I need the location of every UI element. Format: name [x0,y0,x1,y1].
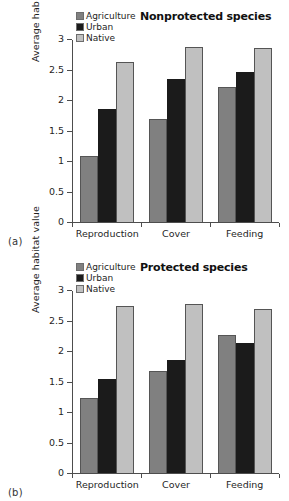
bar-groups [73,291,279,473]
legend: Agriculture Urban Native [76,262,136,294]
legend-swatch-urban [76,23,84,31]
y-axis-tick-label: 3 [58,33,64,44]
y-axis-tick-label: 0.5 [49,437,64,448]
x-axis-tick [72,474,73,478]
bar-agriculture-reproduction [80,156,98,222]
y-axis-tick-label: 2 [58,94,64,105]
y-axis-title: Average habitat value [30,0,41,62]
y-axis-tick-label: 1 [58,406,64,417]
bar-agriculture-cover [149,119,167,222]
bar-urban-reproduction [98,379,116,473]
x-axis-tick [279,223,280,227]
x-axis-tick [141,474,142,478]
x-axis-tick [141,223,142,227]
bar-group [142,291,211,473]
bar-urban-cover [167,360,185,473]
x-axis-tick [210,223,211,227]
y-axis-tick: 2.5 [67,70,72,71]
chart-panel-nonprotected: Nonprotected species Agriculture Urban N… [0,0,289,250]
y-axis-tick-label: 0 [58,216,64,227]
y-axis-tick-label: 0 [58,467,64,478]
y-axis-tick: 3 [67,290,72,291]
legend-item-agriculture: Agriculture [76,262,136,272]
bar-group [73,291,142,473]
x-axis-label: Reproduction [73,228,142,239]
y-axis-tick-label: 1 [58,155,64,166]
bar-agriculture-feeding [218,335,236,473]
x-axis-tick [279,474,280,478]
legend: Agriculture Urban Native [76,11,136,43]
bar-group [73,40,142,222]
legend-item-agriculture: Agriculture [76,11,136,21]
legend-label-urban: Urban [86,274,113,283]
legend-label-urban: Urban [86,23,113,32]
plot-area: 00.511.522.53 [72,40,279,223]
bar-group [142,40,211,222]
bar-native-reproduction [116,306,134,473]
legend-swatch-agriculture [76,263,84,271]
chart-title: Nonprotected species [140,10,271,23]
chart-title: Protected species [140,261,248,274]
legend-swatch-agriculture [76,12,84,20]
bar-native-reproduction [116,62,134,222]
x-axis-tick [210,474,211,478]
legend-item-urban: Urban [76,22,136,32]
legend-label-agriculture: Agriculture [86,12,136,21]
x-axis-label: Feeding [210,479,279,490]
x-axis-labels: ReproductionCoverFeeding [73,479,279,490]
bar-group [210,291,279,473]
y-axis-tick-label: 2.5 [49,315,64,326]
x-axis-label: Feeding [210,228,279,239]
x-axis-label: Cover [142,228,211,239]
legend-item-urban: Urban [76,273,136,283]
y-axis-tick: 2.5 [67,321,72,322]
bar-urban-feeding [236,343,254,473]
plot-area: 00.511.522.53 [72,291,279,474]
y-axis-tick-label: 0.5 [49,186,64,197]
bar-groups [73,40,279,222]
legend-label-agriculture: Agriculture [86,263,136,272]
y-axis-tick: 1.5 [67,131,72,132]
y-axis-tick-label: 2 [58,345,64,356]
y-axis-tick: 0.5 [67,192,72,193]
y-axis-title: Average habitat value [30,206,41,313]
y-axis-tick: 1 [67,161,72,162]
legend-swatch-urban [76,274,84,282]
x-axis-labels: ReproductionCoverFeeding [73,228,279,239]
bar-urban-cover [167,79,185,222]
x-axis-line [72,222,279,223]
bar-urban-feeding [236,72,254,222]
panel-label-b: (b) [8,487,23,498]
bar-native-feeding [254,309,272,473]
y-axis-tick: 1 [67,412,72,413]
bar-agriculture-reproduction [80,398,98,473]
y-axis-tick: 2 [67,351,72,352]
bar-native-feeding [254,48,272,222]
y-axis-tick-label: 1.5 [49,125,64,136]
y-axis-tick: 1.5 [67,382,72,383]
bar-urban-reproduction [98,109,116,222]
y-axis-tick: 3 [67,39,72,40]
x-axis-line [72,473,279,474]
bar-native-cover [185,47,203,222]
x-axis-label: Reproduction [73,479,142,490]
bar-group [210,40,279,222]
bar-native-cover [185,304,203,473]
y-axis-tick-label: 2.5 [49,64,64,75]
bar-agriculture-cover [149,371,167,473]
x-axis-label: Cover [142,479,211,490]
y-axis-tick: 0.5 [67,443,72,444]
x-axis-tick [72,223,73,227]
y-axis-tick-label: 1.5 [49,376,64,387]
y-axis-tick-label: 3 [58,284,64,295]
panel-label-a: (a) [8,236,23,247]
chart-panel-protected: Protected species Agriculture Urban Nati… [0,251,289,501]
bar-agriculture-feeding [218,87,236,222]
y-axis-tick: 2 [67,100,72,101]
